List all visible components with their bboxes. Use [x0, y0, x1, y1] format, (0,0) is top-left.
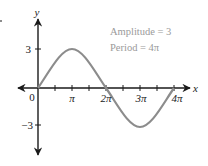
x-tick-pi: π [69, 92, 75, 104]
x-axis-label: x [192, 82, 198, 94]
y-tick-neg3: −3 [21, 119, 33, 131]
period-annotation: Period = 4π [110, 43, 159, 54]
y-axis-label: y [34, 6, 40, 18]
amplitude-annotation: Amplitude = 3 [110, 27, 171, 38]
x-tick-2pi: 2π [100, 92, 112, 104]
origin-label: 0 [29, 91, 35, 103]
x-tick-3pi: 3π [134, 92, 147, 104]
y-tick-3: 3 [26, 43, 32, 55]
sine-graph: y x 0 3 −3 π 2π 3π 4π [0, 0, 208, 166]
x-tick-4pi: 4π [171, 92, 183, 104]
